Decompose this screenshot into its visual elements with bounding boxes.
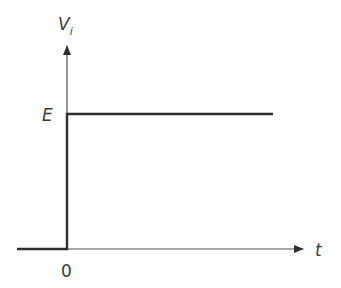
y-axis-label: Vi: [58, 14, 73, 38]
level-label-e: E: [42, 105, 53, 125]
x-axis-label: t: [315, 240, 323, 260]
step-signal: [17, 114, 273, 249]
origin-label: 0: [61, 261, 72, 281]
step-diagram: Vi E 0 t: [0, 0, 341, 288]
